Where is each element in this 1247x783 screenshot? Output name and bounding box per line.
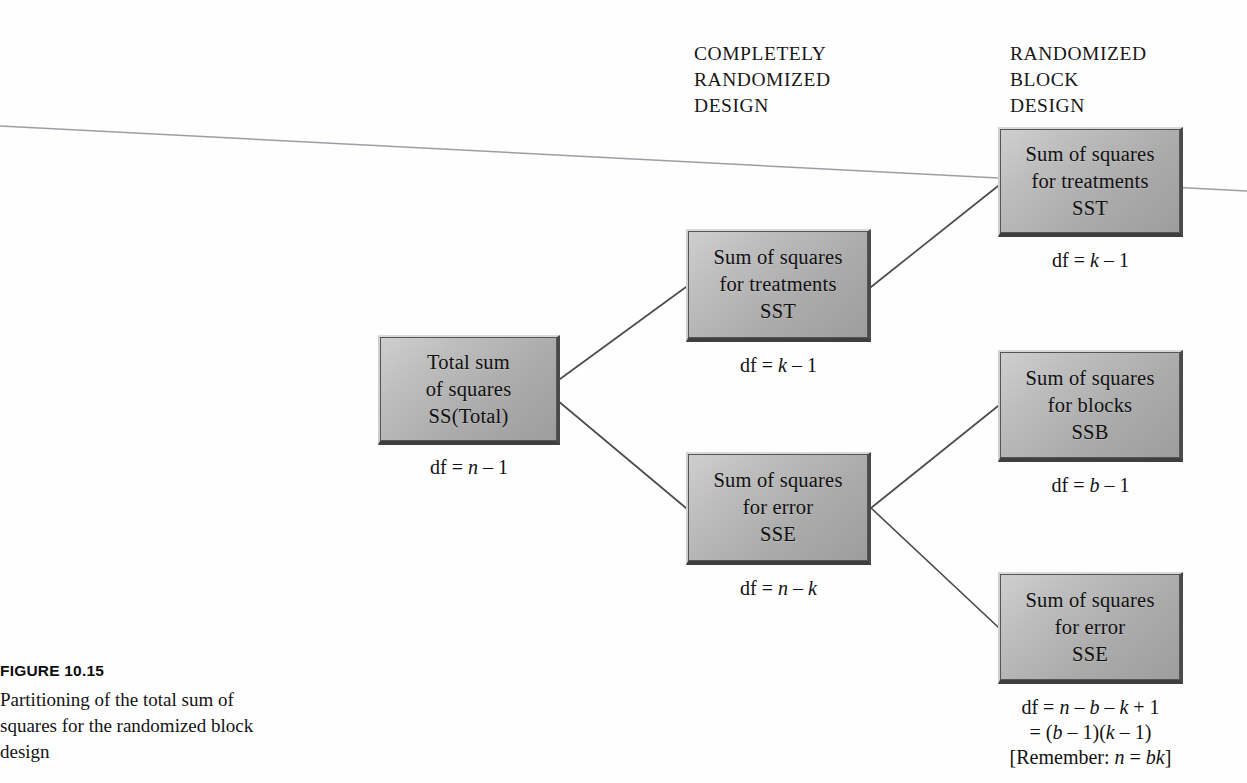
df-total-sum-of-squares: df = n – 1 bbox=[378, 455, 560, 480]
node-total-sum-of-squares[interactable]: Total sum of squares SS(Total) bbox=[378, 335, 560, 445]
node-rbd-sst-label: Sum of squares for treatments SST bbox=[1025, 141, 1154, 222]
df-rbd-ssb: df = b – 1 bbox=[998, 473, 1183, 498]
figure-number: FIGURE 10.15 bbox=[0, 662, 290, 680]
node-total-sum-of-squares-label: Total sum of squares SS(Total) bbox=[426, 349, 512, 430]
column-heading-randomized-block-design: RANDOMIZED BLOCK DESIGN bbox=[1010, 41, 1147, 119]
node-rbd-sum-of-squares-for-blocks[interactable]: Sum of squares for blocks SSB bbox=[998, 350, 1183, 462]
node-rbd-sum-of-squares-for-error[interactable]: Sum of squares for error SSE bbox=[998, 572, 1183, 684]
connector-crd-sse-to-rbd-sse bbox=[871, 508, 998, 627]
node-rbd-ssb-label: Sum of squares for blocks SSB bbox=[1025, 365, 1154, 446]
node-rbd-sse-label: Sum of squares for error SSE bbox=[1025, 587, 1154, 668]
df-rbd-sse: df = n – b – k + 1= (b – 1)(k – 1)[Remem… bbox=[968, 695, 1213, 770]
df-crd-sst: df = k – 1 bbox=[686, 353, 871, 378]
connector-total-to-crd-sst bbox=[545, 287, 686, 390]
node-crd-sum-of-squares-for-treatments[interactable]: Sum of squares for treatments SST bbox=[686, 229, 871, 342]
df-rbd-sst: df = k – 1 bbox=[998, 248, 1183, 273]
connector-total-to-crd-sse bbox=[545, 390, 686, 508]
node-crd-sst-label: Sum of squares for treatments SST bbox=[713, 244, 842, 325]
df-crd-sse: df = n – k bbox=[686, 576, 871, 601]
column-heading-completely-randomized-design: COMPLETELY RANDOMIZED DESIGN bbox=[694, 41, 831, 119]
figure-caption: FIGURE 10.15 Partitioning of the total s… bbox=[0, 662, 290, 765]
connector-crd-sst-to-rbd-sst bbox=[871, 186, 998, 287]
node-crd-sum-of-squares-for-error[interactable]: Sum of squares for error SSE bbox=[686, 452, 871, 565]
node-rbd-sum-of-squares-for-treatments[interactable]: Sum of squares for treatments SST bbox=[998, 127, 1183, 237]
connector-crd-sse-to-rbd-ssb bbox=[871, 406, 998, 508]
figure-page: COMPLETELY RANDOMIZED DESIGN RANDOMIZED … bbox=[0, 0, 1247, 783]
node-crd-sse-label: Sum of squares for error SSE bbox=[713, 467, 842, 548]
figure-caption-text: Partitioning of the total sum of squares… bbox=[0, 687, 290, 765]
